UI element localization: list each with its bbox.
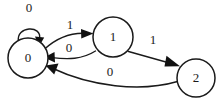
state-node-0[interactable]: 0: [8, 38, 48, 78]
transition-s0-to-s0-label: 0: [26, 0, 33, 15]
transition-s1-to-s2: 1: [129, 32, 181, 67]
transition-s1-to-s2-arrowhead: [165, 56, 181, 67]
transition-s1-to-s0-label: 0: [66, 40, 73, 55]
state-node-2[interactable]: 2: [177, 59, 215, 97]
state-node-2-label: 2: [193, 70, 200, 85]
transition-s1-to-s2-label: 1: [150, 32, 157, 47]
transition-s0-to-s1-label: 1: [67, 17, 74, 32]
transition-s2-to-s0-path: [53, 69, 178, 87]
state-diagram: 0 1 0 1 0 0: [0, 0, 221, 103]
state-node-1[interactable]: 1: [93, 17, 133, 57]
state-node-0-label: 0: [25, 50, 32, 65]
state-diagram-canvas: 0 1 0 1 0 0: [0, 0, 221, 103]
transition-s2-to-s0: 0: [46, 64, 178, 87]
transition-s0-to-s1-arrowhead: [81, 29, 94, 39]
transition-s1-to-s0-path: [52, 51, 96, 59]
state-node-1-label: 1: [110, 29, 117, 44]
transition-s2-to-s0-label: 0: [107, 64, 114, 79]
